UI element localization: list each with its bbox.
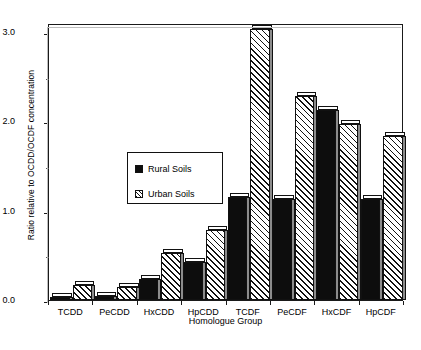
bar-face [139,279,159,300]
bar-cap [163,249,183,253]
bar-cap [208,226,228,230]
bar-cap [363,195,383,199]
bar-cap [119,283,139,287]
bar-face [272,199,292,300]
y-axis-title: Ratio relative to OCDD/OCDF concentratio… [26,50,36,260]
bar-face [73,285,93,300]
bar-hpcdf-rural-soils [361,199,381,300]
bar-face [206,230,226,300]
bar-tcdd-rural-soils [50,297,70,300]
solid-black-swatch-icon [135,165,143,173]
bar-cap [97,292,117,296]
bar-face [339,124,359,300]
y-minor-tick [46,257,49,258]
x-tick [314,301,315,305]
bar-hxcdd-urban-soils [161,253,181,300]
bar-hpcdf-urban-soils [383,136,403,300]
bar-face [161,253,181,300]
x-tick [137,301,138,305]
legend-label-urban-soils: Urban Soils [148,190,195,199]
bar-cap [341,120,361,124]
y-minor-tick [46,168,49,169]
y-minor-tick [46,79,49,80]
bar-face [50,297,70,300]
legend-label-rural-soils: Rural Soils [148,165,192,174]
bar-tcdd-urban-soils [73,285,93,300]
bar-hxcdf-urban-soils [339,124,359,300]
y-tick-label-1.0: 1.0 [0,207,15,216]
bar-cap [318,106,338,110]
x-tick [270,301,271,305]
bar-face [183,262,203,300]
bar-side [403,136,406,300]
bar-cap [185,258,205,262]
bar-face [117,287,137,300]
bar-face [95,296,115,300]
bar-cap [252,25,272,29]
bar-tcdf-rural-soils [228,197,248,300]
bar-pecdd-urban-soils [117,287,137,300]
chart-legend: Rural Soils Urban Soils [127,152,223,204]
bar-hxcdd-rural-soils [139,279,159,300]
bar-chart-figure: Ratio relative to OCDD/OCDF concentratio… [0,0,421,350]
bar-cap [52,293,72,297]
x-tick [226,301,227,305]
bar-cap [274,195,294,199]
y-tick-label-3.0: 3.0 [0,28,15,37]
x-tick [181,301,182,305]
plot-area: Rural Soils Urban Soils [48,24,403,301]
x-tick [359,301,360,305]
y-tick-1.0 [44,213,49,214]
bar-pecdf-urban-soils [295,96,315,300]
x-tick [403,301,404,305]
y-tick-label-2.0: 2.0 [0,117,15,126]
bar-face [383,136,403,300]
hatched-swatch-icon [135,190,143,198]
bar-cap [141,275,161,279]
bar-cap [385,132,405,136]
x-tick [92,301,93,305]
bar-hpcdd-urban-soils [206,230,226,300]
bar-cap [75,281,95,285]
bar-pecdf-rural-soils [272,199,292,300]
bar-face [361,199,381,300]
bar-face [295,96,315,300]
legend-item-rural-soils: Rural Soils [135,159,216,179]
bar-hpcdd-rural-soils [183,262,203,300]
bar-face [316,110,336,300]
y-tick-label-0.0: 0.0 [0,296,15,305]
bar-face [250,29,270,300]
y-tick-3.0 [44,34,49,35]
bar-face [228,197,248,300]
x-tick [48,301,49,305]
bar-tcdf-urban-soils [250,29,270,300]
legend-item-urban-soils: Urban Soils [135,184,216,204]
bar-hxcdf-rural-soils [316,110,336,300]
bar-pecdd-rural-soils [95,296,115,300]
bar-cap [297,92,317,96]
y-tick-2.0 [44,123,49,124]
x-axis-title: Homologue Group [48,316,403,326]
bar-cap [230,193,250,197]
